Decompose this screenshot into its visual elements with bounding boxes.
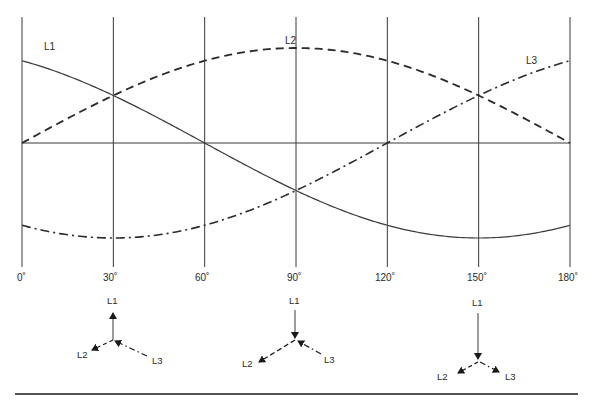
phasor-label-l3: L3	[324, 354, 335, 365]
tick-label-60: 60˚	[195, 272, 209, 283]
phasor-label-l1: L1	[107, 295, 118, 306]
phasor-label-l1: L1	[472, 297, 483, 308]
tick-label-150: 150˚	[467, 272, 487, 283]
phasor-diagram-90: L1 L2 L3	[242, 295, 335, 369]
tick-label-30: 30˚	[103, 272, 117, 283]
phasor-diagram-150: L1 L2 L3	[437, 297, 516, 382]
phasor-label-l2: L2	[242, 358, 253, 369]
vertical-grid-lines	[22, 17, 570, 267]
x-axis-tick-labels: 0˚ 30˚ 60˚ 90˚ 120˚ 150˚ 180˚	[17, 272, 578, 283]
phasor-label-l1: L1	[289, 295, 300, 306]
three-phase-waveform-diagram: L1 L2 L3 0˚ 30˚ 60˚ 90˚ 120˚ 150˚ 180˚ L…	[0, 0, 589, 400]
phasor-l3-arrow	[480, 362, 499, 372]
curve-label-l1: L1	[44, 41, 56, 52]
phasor-l2-arrow	[458, 362, 478, 373]
phasor-diagram-30: L1 L2 L3	[77, 295, 163, 366]
tick-label-90: 90˚	[287, 272, 301, 283]
phasor-l3-arrow	[115, 341, 147, 356]
phasor-l3-arrow	[298, 341, 321, 354]
tick-label-180: 180˚	[558, 272, 578, 283]
phasor-label-l2: L2	[77, 349, 88, 360]
tick-label-120: 120˚	[375, 272, 395, 283]
curve-label-l3: L3	[526, 55, 538, 66]
curve-label-l2: L2	[285, 35, 297, 46]
phasor-label-l3: L3	[152, 355, 163, 366]
tick-label-0: 0˚	[17, 272, 26, 283]
phasor-l2-arrow	[259, 340, 295, 362]
phasor-l2-arrow	[92, 340, 113, 350]
phasor-label-l3: L3	[505, 371, 516, 382]
phasor-label-l2: L2	[437, 371, 448, 382]
